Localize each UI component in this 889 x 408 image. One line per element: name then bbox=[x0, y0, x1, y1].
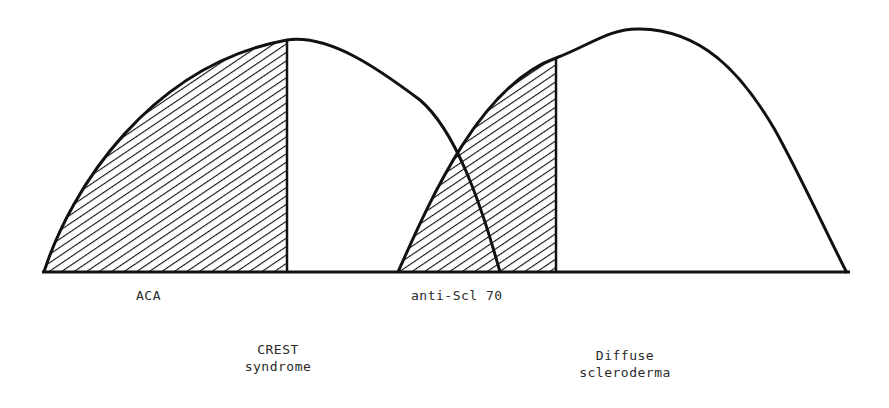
diffuse-scleroderma-label: Diffuse scleroderma bbox=[570, 347, 680, 381]
anti-scl70-label: anti-Scl 70 bbox=[411, 287, 503, 304]
diffuse-label-line1: Diffuse bbox=[570, 347, 680, 364]
anti-scl70-hatched-region bbox=[398, 58, 556, 272]
crest-label-line1: CREST bbox=[238, 341, 318, 358]
crest-syndrome-label: CREST syndrome bbox=[238, 341, 318, 375]
diffuse-label-line2: scleroderma bbox=[570, 364, 680, 381]
aca-label: ACA bbox=[136, 287, 161, 304]
scleroderma-spectrum-diagram bbox=[0, 0, 889, 408]
aca-hatched-region bbox=[44, 40, 287, 272]
crest-label-line2: syndrome bbox=[238, 358, 318, 375]
